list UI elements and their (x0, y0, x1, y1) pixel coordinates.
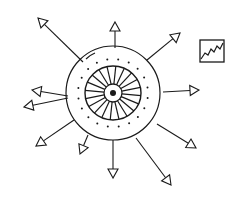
arrowhead-icon (170, 33, 180, 43)
arrowhead-icon (186, 139, 196, 148)
arrowhead-icon (32, 87, 42, 97)
arrow-left-upper (32, 87, 68, 97)
arrowhead-icon (162, 175, 171, 185)
arrowhead-icon (190, 86, 199, 96)
arrowhead-icon (110, 22, 120, 31)
hub-center-dot (110, 90, 116, 96)
arrow-lower-right (157, 124, 196, 148)
arrowhead-icon (36, 137, 46, 146)
arrowhead-icon (108, 169, 118, 178)
diagram-canvas (0, 0, 238, 200)
arrow-right (163, 86, 199, 96)
arrow-bottom (108, 140, 118, 178)
arrowhead-icon (24, 100, 34, 110)
arrowhead-icon (79, 144, 88, 154)
arrow-top-right (147, 33, 180, 60)
line-chart-icon (200, 40, 224, 62)
radial-diagram (0, 0, 238, 200)
arrow-left-middle (24, 98, 68, 110)
arrow-bottom-right (136, 138, 171, 185)
arrow-left-lower (36, 120, 74, 146)
arrow-bottom-left-short (79, 135, 88, 154)
arrow-top (110, 22, 120, 48)
arrow-top-left (38, 18, 83, 62)
